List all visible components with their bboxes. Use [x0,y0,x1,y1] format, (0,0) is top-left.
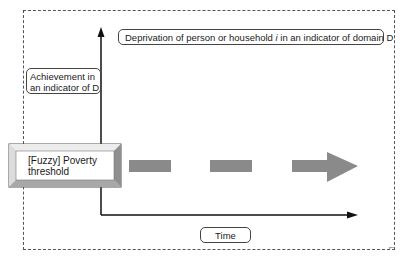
x-axis [101,212,358,219]
threshold-line-2: threshold [28,166,118,177]
threshold-line-1: [Fuzzy] Poverty [28,155,118,166]
deprivation-label: Deprivation of person or household i in … [118,29,384,45]
achievement-label: Achievement in an indicator of D [26,68,101,94]
poverty-threshold-label: [Fuzzy] Poverty threshold [28,155,118,177]
y-axis-arrow-icon [98,27,105,37]
corner-mark: ⌐ [389,242,394,252]
x-axis-arrow-icon [347,212,358,219]
arrow-head-icon [327,152,358,182]
time-label: Time [200,227,251,243]
threshold-dashed-arrow [129,152,358,182]
